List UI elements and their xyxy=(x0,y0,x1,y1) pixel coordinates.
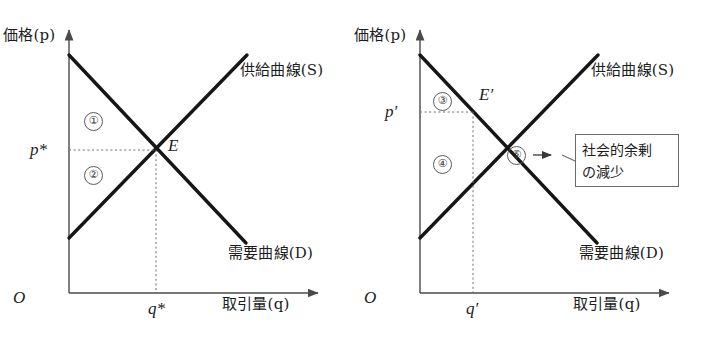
left-origin-label: O xyxy=(13,289,25,306)
callout-leader-line xyxy=(533,155,575,161)
right-price-tick-label: p′ xyxy=(385,103,397,120)
right-demand-curve-label: 需要曲線(D) xyxy=(579,246,664,261)
left-equilibrium-point-label: E xyxy=(168,137,178,154)
right-region-5-marker: ⑤ xyxy=(507,146,526,165)
right-supply-curve-label: 供給曲線(S) xyxy=(591,63,674,78)
callout-leader-segment xyxy=(562,155,575,161)
left-region-1-marker: ① xyxy=(84,112,103,131)
right-panel-guides xyxy=(420,112,473,293)
left-panel-guides xyxy=(69,150,156,293)
left-y-axis-label: 価格(p) xyxy=(3,28,55,43)
social-surplus-callout-box: 社会的余剰 の減少 xyxy=(575,134,679,187)
right-region-4-marker: ④ xyxy=(433,155,452,174)
economics-figure: 価格(p) 供給曲線(S) 需要曲線(D) p* q* E O 取引量(q) ①… xyxy=(0,0,716,341)
right-quantity-tick-label: q′ xyxy=(466,300,478,317)
left-x-axis-label: 取引量(q) xyxy=(222,297,290,312)
right-y-axis-label: 価格(p) xyxy=(354,28,406,43)
left-quantity-tick-label: q* xyxy=(148,300,165,317)
left-panel-curves xyxy=(69,55,247,243)
left-supply-curve-label: 供給曲線(S) xyxy=(240,63,323,78)
left-demand-curve-label: 需要曲線(D) xyxy=(228,246,313,261)
left-price-tick-label: p* xyxy=(30,141,47,158)
right-x-axis-label: 取引量(q) xyxy=(573,297,641,312)
left-region-2-marker: ② xyxy=(84,166,103,185)
callout-line-2: の減少 xyxy=(582,161,673,183)
callout-line-1: 社会的余剰 xyxy=(582,139,673,161)
right-origin-label: O xyxy=(364,289,376,306)
right-region-3-marker: ③ xyxy=(433,92,452,111)
right-restricted-point-label: E′ xyxy=(479,86,493,103)
